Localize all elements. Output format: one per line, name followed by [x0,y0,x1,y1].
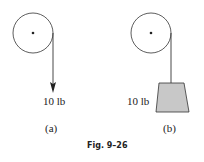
force-label-a: 10 lb [43,96,65,107]
force-label-b: 10 lb [127,96,149,107]
panel-label-a: (a) [45,123,57,134]
panel-a [13,13,56,93]
pulley-axle-b [150,32,153,35]
pulley-axle-a [32,32,35,35]
figure-caption: Fig. 9–26 [87,142,127,150]
weight-block [156,83,189,112]
panel-label-b: (b) [163,123,176,134]
pulley-diagram [0,0,204,162]
